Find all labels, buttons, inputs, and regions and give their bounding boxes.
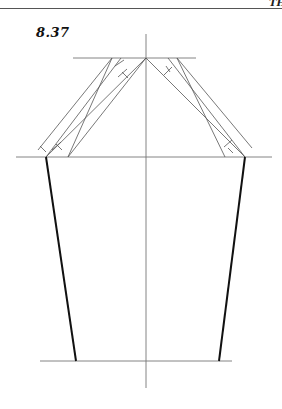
left-underarm-seam <box>46 157 76 361</box>
sleeve-draft-diagram <box>0 0 282 409</box>
right-underarm-seam <box>219 157 245 361</box>
left-crown-construction <box>38 58 146 157</box>
right-crown-construction <box>146 58 252 157</box>
